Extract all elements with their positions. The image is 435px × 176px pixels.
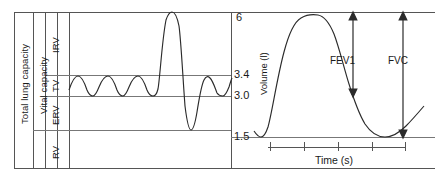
ytick-3-0: 3.0 (234, 90, 249, 101)
label-fvc: FVC (388, 56, 408, 66)
fvc-arrow (399, 12, 407, 138)
y-axis-title: Volume (l) (259, 52, 269, 95)
label-fev1: FEV1 (330, 56, 355, 66)
diagram-canvas (0, 0, 435, 176)
x-axis-title: Time (s) (315, 155, 353, 166)
ytick-1-5: 1.5 (234, 131, 249, 142)
lung-volume-diagram: Total lung capacity Vital capacity IRV T… (0, 0, 435, 176)
time-axis-group (268, 142, 406, 151)
label-erv: ERV (51, 105, 61, 125)
label-tv: TV (51, 80, 61, 92)
tidal-breathing-curve (69, 12, 232, 130)
label-irv: IRV (51, 37, 61, 53)
label-total-lung-capacity: Total lung capacity (20, 44, 30, 124)
ytick-3-4: 3.4 (234, 69, 249, 80)
label-rv: RV (51, 146, 61, 159)
ytick-6: 6 (236, 12, 242, 23)
forced-expiratory-curve (254, 15, 424, 137)
label-vital-capacity: Vital capacity (39, 57, 49, 114)
